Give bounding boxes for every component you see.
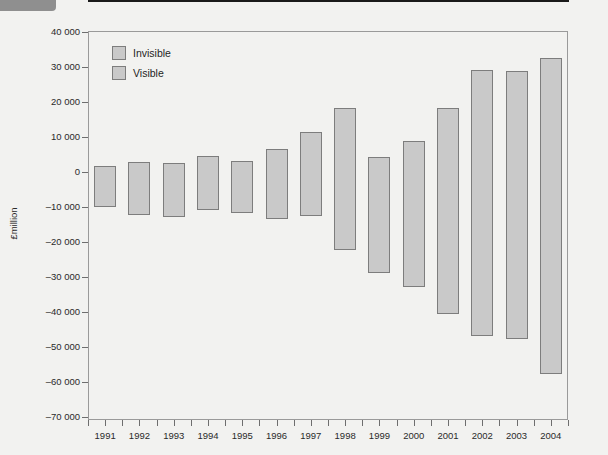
x-axis-boundary-tick [225,420,226,426]
x-axis-tick [139,420,140,426]
x-axis-boundary-tick [465,420,466,426]
x-axis-boundary-tick [362,420,363,426]
bar-2000 [403,141,425,287]
x-axis-boundary-tick [397,420,398,426]
x-axis-tick [242,420,243,426]
y-axis-label: –60 000 [18,377,80,387]
bars-layer [88,31,568,420]
chart-figure: 40 00030 00020 00010 0000–10 000–20 000–… [0,0,608,455]
x-axis-boundary-tick [431,420,432,426]
y-axis-label: –20 000 [18,237,80,247]
chart-legend: InvisibleVisible [112,44,232,84]
x-axis-tick [174,420,175,426]
legend-swatch-invisible [112,46,126,60]
bar-2002 [471,70,493,336]
bar-1994 [197,156,219,210]
bar-1991 [94,166,116,207]
x-axis-tick [448,420,449,426]
x-axis-boundary-tick [157,420,158,426]
bar-1998 [334,108,356,250]
bar-1999 [368,157,390,274]
x-axis-boundary-tick [534,420,535,426]
y-axis-label: 40 000 [18,27,80,37]
y-axis-label: 10 000 [18,132,80,142]
y-axis-label: 20 000 [18,97,80,107]
x-axis-tick [208,420,209,426]
x-axis-tick [105,420,106,426]
y-axis-title: £million [8,194,19,254]
x-axis-boundary-tick [294,420,295,426]
y-axis-label: –30 000 [18,272,80,282]
y-axis-label: 30 000 [18,62,80,72]
x-axis-boundary-tick [191,420,192,426]
y-axis-label: –40 000 [18,307,80,317]
x-axis-boundary-tick [328,420,329,426]
x-axis-tick [277,420,278,426]
zero-line [88,0,569,2]
x-axis-tick [414,420,415,426]
x-axis-boundary-tick [259,420,260,426]
y-axis-label: –10 000 [18,202,80,212]
x-axis-tick [551,420,552,426]
bar-2003 [506,71,528,339]
x-axis-boundary-tick [122,420,123,426]
legend-item-visible: Visible [112,64,232,82]
legend-item-invisible: Invisible [112,44,232,62]
legend-label-invisible: Invisible [133,47,171,59]
bar-1996 [266,149,288,219]
x-axis-tick [482,420,483,426]
x-axis-tick [517,420,518,426]
bar-1993 [163,163,185,217]
bar-2004 [540,58,562,374]
x-axis-boundary-tick [568,420,569,426]
x-axis-label: 2004 [528,430,574,441]
legend-swatch-visible [112,66,126,80]
x-axis-tick [379,420,380,426]
bar-2001 [437,108,459,314]
bar-1997 [300,132,322,216]
x-axis-tick [311,420,312,426]
x-axis-boundary-tick [88,420,89,426]
y-axis-label: 0 [18,167,80,177]
legend-label-visible: Visible [133,67,164,79]
y-axis-label: –50 000 [18,342,80,352]
bar-1995 [231,161,253,213]
y-axis-label: –70 000 [18,412,80,422]
x-axis-tick [345,420,346,426]
x-axis-boundary-tick [499,420,500,426]
bar-1992 [128,162,150,215]
